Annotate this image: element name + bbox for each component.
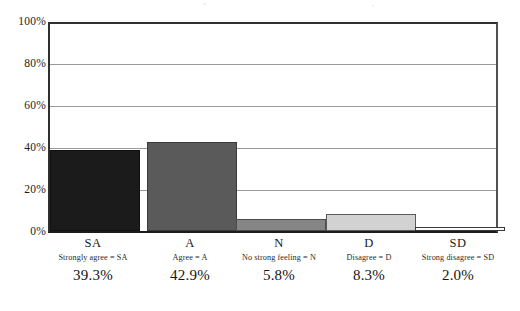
x-label-value: 5.8% — [234, 265, 323, 285]
y-axis: 100% 80% 60% 40% 20% 0% — [0, 0, 46, 311]
x-label-code: SD — [413, 236, 502, 251]
bars-layer — [50, 24, 496, 231]
x-label-legend: Strong disagree = SD — [413, 251, 502, 265]
scan-artifact — [203, 3, 206, 5]
x-label-group-d: DDisagree = D8.3% — [324, 236, 413, 285]
bar-n — [236, 219, 326, 231]
x-label-value: 42.9% — [145, 265, 234, 285]
x-label-value: 2.0% — [413, 265, 502, 285]
x-label-group-sd: SDStrong disagree = SD2.0% — [413, 236, 502, 285]
plot-area — [48, 22, 498, 233]
y-tick-label-100: 100% — [2, 16, 46, 28]
x-label-group-a: AAgree = A42.9% — [145, 236, 234, 285]
y-tick-label-40: 40% — [2, 142, 46, 154]
x-label-code: A — [145, 236, 234, 251]
bar-sa — [50, 150, 140, 231]
scan-artifact — [372, 5, 374, 7]
bar-a — [147, 142, 237, 231]
bar-d — [326, 214, 416, 231]
x-label-value: 8.3% — [324, 265, 413, 285]
x-label-legend: Disagree = D — [324, 251, 413, 265]
x-label-value: 39.3% — [48, 265, 137, 285]
y-tick-label-80: 80% — [2, 58, 46, 70]
x-label-legend: Strongly agree = SA — [48, 251, 137, 265]
x-label-code: N — [234, 236, 323, 251]
bar-chart: 100% 80% 60% 40% 20% 0% SAStrongly agree… — [0, 0, 520, 311]
x-label-legend: Agree = A — [145, 251, 234, 265]
x-label-group-sa: SAStrongly agree = SA39.3% — [48, 236, 137, 285]
y-tick-label-60: 60% — [2, 100, 46, 112]
bar-sd — [415, 227, 505, 231]
y-tick-label-20: 20% — [2, 184, 46, 196]
y-tick-label-0: 0% — [2, 226, 46, 238]
x-axis-labels: SAStrongly agree = SA39.3%AAgree = A42.9… — [48, 236, 498, 308]
x-label-code: SA — [48, 236, 137, 251]
x-label-code: D — [324, 236, 413, 251]
x-label-legend: No strong feeling = N — [234, 251, 323, 265]
x-label-group-n: NNo strong feeling = N5.8% — [234, 236, 323, 285]
